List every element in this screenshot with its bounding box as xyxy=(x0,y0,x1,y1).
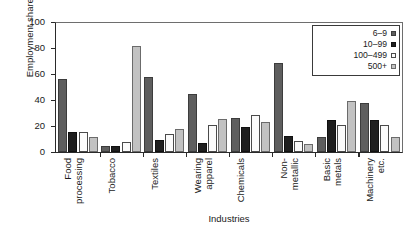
bar xyxy=(68,132,77,152)
bar-group xyxy=(186,22,229,152)
y-axis-tick-label: 80 xyxy=(34,41,45,54)
x-axis-group-tick xyxy=(186,152,187,157)
y-axis-tick-label: 40 xyxy=(34,93,45,106)
bar xyxy=(111,146,120,152)
bar xyxy=(327,120,336,152)
x-axis-category-label: Wearing xyxy=(192,158,204,193)
x-axis-category: Foodprocessing xyxy=(56,158,99,218)
x-axis-title: Industries xyxy=(55,213,403,224)
bar xyxy=(360,103,369,151)
legend-item: 100–499 xyxy=(316,50,396,61)
x-axis-category-label: Chemicals xyxy=(235,158,247,202)
legend-item: 500+ xyxy=(316,61,396,72)
y-axis-tick-label: 20 xyxy=(34,119,45,132)
bar xyxy=(261,122,270,151)
x-axis-group-tick xyxy=(100,152,101,157)
x-axis-category-labels: FoodprocessingTobaccoTextilesWearingappa… xyxy=(56,158,401,218)
bar-group xyxy=(56,22,99,152)
y-axis-tick-label: 0 xyxy=(40,145,45,158)
y-axis-tick: 20 xyxy=(0,126,55,127)
legend-swatch-icon xyxy=(391,42,396,47)
bar xyxy=(58,79,67,151)
x-axis-category-label: Tobacco xyxy=(106,158,118,193)
bar xyxy=(218,119,227,152)
bar-group xyxy=(272,22,315,152)
y-axis-tick-label: 60 xyxy=(34,67,45,80)
legend-item: 10–99 xyxy=(316,39,396,50)
bar xyxy=(251,115,260,152)
legend-item: 6–9 xyxy=(316,28,396,39)
bar xyxy=(132,46,141,152)
legend-label: 6–9 xyxy=(373,28,387,39)
x-axis-category-label: Textiles xyxy=(149,158,161,190)
legend-label: 10–99 xyxy=(363,39,387,50)
legend-label: 500+ xyxy=(368,61,387,72)
bar xyxy=(79,132,88,151)
x-axis-category: Machineryetc. xyxy=(358,158,401,218)
bar xyxy=(304,144,313,152)
bar xyxy=(241,127,250,152)
y-axis-tick: 60 xyxy=(0,74,55,75)
employment-share-bar-chart: Employment share (%) 020406080100 Foodpr… xyxy=(0,0,413,231)
bar xyxy=(122,142,131,152)
bar xyxy=(274,63,283,152)
x-axis-category-label: processing xyxy=(73,158,85,204)
legend: 6–910–99100–499500+ xyxy=(312,25,400,76)
bar xyxy=(208,125,217,152)
x-axis-group-tick xyxy=(143,152,144,157)
bar xyxy=(89,137,98,152)
y-axis-tick: 80 xyxy=(0,48,55,49)
x-axis-group-tick xyxy=(229,152,230,157)
x-axis-category: Tobacco xyxy=(100,158,143,218)
x-axis-category-label: apparel xyxy=(203,158,215,190)
x-axis-category: Non-metallic xyxy=(272,158,315,218)
x-axis-group-tick xyxy=(315,152,316,157)
y-axis-tick: 40 xyxy=(0,100,55,101)
bar-group xyxy=(143,22,186,152)
bar xyxy=(317,137,326,151)
bar xyxy=(175,129,184,152)
bar xyxy=(144,77,153,152)
bar xyxy=(370,120,379,152)
bar xyxy=(347,101,356,152)
bar xyxy=(198,143,207,151)
bar xyxy=(231,118,240,152)
x-axis-category-label: metals xyxy=(332,158,344,186)
x-axis-category: Wearingapparel xyxy=(186,158,229,218)
bar xyxy=(337,125,346,152)
legend-label: 100–499 xyxy=(354,50,387,61)
legend-swatch-icon xyxy=(391,53,396,58)
y-axis-tick: 100 xyxy=(0,22,55,23)
bar xyxy=(155,140,164,152)
x-axis-category: Chemicals xyxy=(229,158,272,218)
y-axis-tick: 0 xyxy=(0,152,55,153)
bar xyxy=(380,125,389,152)
legend-swatch-icon xyxy=(391,31,396,36)
bar xyxy=(391,137,400,152)
x-axis-group-tick xyxy=(272,152,273,157)
x-axis-category-label: metallic xyxy=(289,158,301,190)
x-axis-category: Basicmetals xyxy=(315,158,358,218)
bar xyxy=(294,141,303,152)
bar xyxy=(284,136,293,152)
bar-group xyxy=(100,22,143,152)
bar-group xyxy=(229,22,272,152)
bar xyxy=(165,134,174,152)
bar xyxy=(188,94,197,152)
y-axis-tick-label: 100 xyxy=(29,15,45,28)
legend-swatch-icon xyxy=(391,64,396,69)
x-axis-group-tick xyxy=(358,152,359,157)
bar xyxy=(101,146,110,151)
x-axis-category-label: etc. xyxy=(375,158,387,173)
x-axis-category: Textiles xyxy=(143,158,186,218)
